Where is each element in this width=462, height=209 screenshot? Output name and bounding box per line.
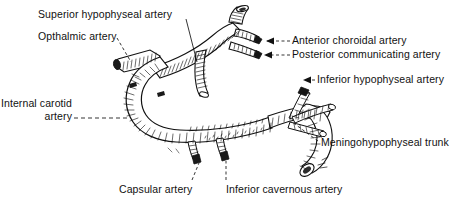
label-inferior-cavernous-artery: Inferior cavernous artery <box>226 183 342 196</box>
arrowhead-posterior-communicating <box>264 52 272 59</box>
capsular-artery-cut-end <box>192 154 201 164</box>
label-internal-carotid-artery: Internal carotid artery <box>0 97 72 122</box>
label-internal-carotid-artery-line1: Internal carotid <box>0 97 72 110</box>
label-capsular-artery: Capsular artery <box>119 183 192 196</box>
label-internal-carotid-artery-line2: artery <box>0 110 72 123</box>
anatomical-figure: Superior hypophyseal artery Opthalmic ar… <box>0 0 462 209</box>
leader-capsular <box>192 163 199 180</box>
label-posterior-communicating-artery: Posterior communicating artery <box>292 48 440 61</box>
arrowhead-inferior-hypophyseal <box>303 77 311 84</box>
inferior-cavernous-cut-end <box>220 151 229 161</box>
vessel-group <box>112 5 336 179</box>
label-ophthalmic-artery: Opthalmic artery <box>38 30 117 43</box>
arrowhead-anterior-choroidal <box>266 38 274 45</box>
label-superior-hypophyseal-artery: Superior hypophyseal artery <box>38 8 172 21</box>
label-meningohypophyseal-trunk: Meningohypophyseal trunk <box>321 136 449 149</box>
label-anterior-choroidal-artery: Anterior choroidal artery <box>292 34 407 47</box>
label-inferior-hypophyseal-artery: Inferior hypophyseal artery <box>317 73 444 86</box>
small-branch-nub-genu <box>157 91 165 97</box>
